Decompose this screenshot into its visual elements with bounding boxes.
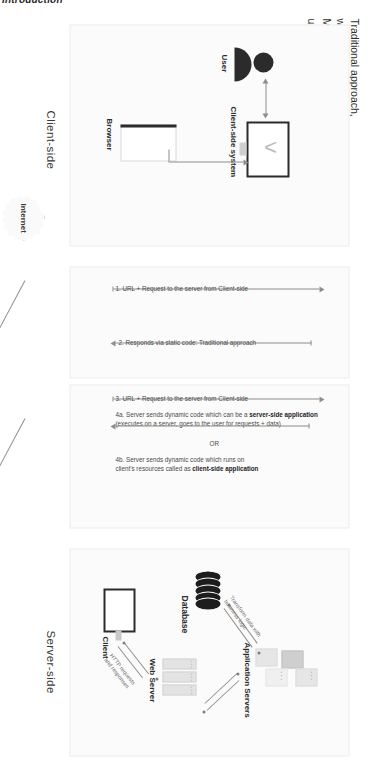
arrow-client-dot-b <box>155 678 158 681</box>
flow-cap-step1 <box>112 287 113 292</box>
flow-step1-text: 1. URL + Request to the server from Clie… <box>115 285 248 292</box>
arrowhead-browser <box>243 159 248 165</box>
arrowhead-user <box>263 79 269 84</box>
connector-browser-to-system <box>168 150 169 163</box>
browser-label: Browser <box>104 119 113 151</box>
web-server-leds-2: • • • <box>188 674 192 682</box>
database-icon <box>194 571 221 611</box>
application-server-icon-3 <box>265 669 287 687</box>
arrowhead-step1 <box>319 286 324 292</box>
arrow-modern-approach <box>0 418 25 477</box>
web-server-leds-3: • • • <box>188 687 192 695</box>
flow-or-text: OR <box>209 440 218 447</box>
database-label: Database <box>179 596 189 634</box>
arrow-appsrv-dot-a <box>236 673 239 676</box>
flow-step4b-sub-bold: client-side application <box>192 465 258 472</box>
arrow-traditional-approach <box>0 280 25 339</box>
flow-line-step4a <box>115 426 309 427</box>
application-server-dots-2: • • • <box>278 672 283 681</box>
application-server-dots: • • • <box>308 672 313 681</box>
application-server-icon-1 <box>281 651 303 669</box>
monitor-stand-icon <box>239 143 246 156</box>
flow-cap-step2-top <box>310 341 311 346</box>
flow-cap-step4a-top <box>308 424 309 429</box>
flow-cap-step3 <box>112 397 113 402</box>
flow-step3-text: 3. URL + Request to the server from Clie… <box>115 395 248 402</box>
diagram-page: Introduction User > Client-side system B… <box>0 0 370 782</box>
flow-step4a-text: 4a. Server sends dynamic code which can … <box>115 411 317 418</box>
arrow-client-dot-a <box>122 642 125 645</box>
browser-titlebar-icon <box>120 125 176 128</box>
arrowhead-step4a <box>110 423 115 429</box>
user-head-icon <box>253 53 273 73</box>
panel-flow-traditional <box>69 267 349 379</box>
flow-step4a-plain: 4a. Server sends dynamic code which can … <box>115 411 249 418</box>
arrowhead-system <box>263 114 269 119</box>
code-chevron-icon: > <box>264 136 277 158</box>
connector-user-system <box>265 82 266 116</box>
flow-step2-text: 2. Responds via static code: Traditional… <box>118 339 256 346</box>
web-server-label: Web Server <box>147 659 156 703</box>
application-servers-label: Application Servers <box>242 643 251 718</box>
connector-browser-vertical <box>169 162 243 163</box>
arrowhead-step3 <box>319 396 324 402</box>
rotated-diagram-canvas: User > Client-side system Browser Client… <box>9 19 361 764</box>
flow-step4b-text: 4b. Server sends dynamic code which runs… <box>115 456 244 463</box>
application-server-icon-2 <box>295 669 317 687</box>
arrowhead-step2 <box>110 340 115 346</box>
arrow-db-dot-b <box>257 652 260 655</box>
arrow-appsrv-dot-b <box>202 711 205 714</box>
server-side-section-label: Server-side <box>44 631 56 694</box>
server-client-stand-icon <box>115 631 121 641</box>
client-system-label: Client-side system <box>228 107 237 178</box>
flow-step4b-sub-plain: client's resources called as <box>115 465 192 472</box>
flow-step4b-subtext: client's resources called as client-side… <box>115 465 258 472</box>
flow-step4a-bold: server-side application <box>249 411 318 418</box>
client-side-section-label: Client-side <box>44 111 56 170</box>
page-title: Introduction <box>2 0 63 5</box>
web-server-leds-1: • • • <box>188 661 192 669</box>
server-client-monitor-icon <box>103 589 135 633</box>
user-label: User <box>219 55 228 73</box>
internet-label: Internet <box>18 204 27 233</box>
